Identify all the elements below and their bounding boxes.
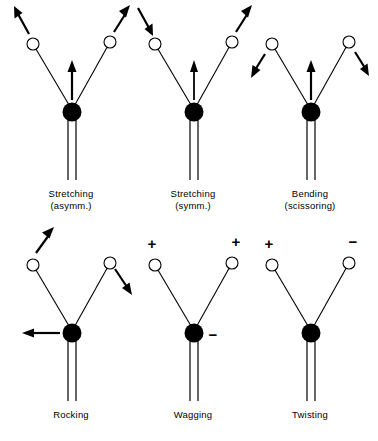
panel-stretching-asymmetric: Stretching (asymm.) [8, 0, 134, 220]
hydrogen-atom-left [149, 38, 161, 50]
panel-bending-scissoring: Bending (scissoring) [247, 0, 373, 220]
panel-twisting: + − Twisting [247, 221, 373, 441]
hydrogen-atom-right [104, 257, 116, 269]
panel-label-line2: (asymm.) [8, 200, 134, 212]
arrow-left-down-right [138, 8, 153, 36]
diagram-wagging: + + − [130, 221, 256, 406]
arrow-left-down-left [251, 54, 265, 78]
central-atom [63, 103, 82, 122]
bond-left [272, 44, 311, 110]
arrow-center-up [307, 60, 316, 100]
bond-right [311, 42, 349, 110]
bond-left [33, 44, 72, 110]
hydrogen-atom-left [266, 38, 278, 50]
hydrogen-atom-left [27, 259, 39, 271]
diagram-stretching-asymmetric [8, 0, 134, 185]
panel-label-line2: (symm.) [130, 200, 256, 212]
arrow-center-left [22, 329, 60, 338]
bond-left [272, 265, 311, 331]
bond-right [194, 42, 232, 110]
panel-wagging: + + − Wagging [130, 221, 256, 441]
diagram-stretching-symmetric [130, 0, 256, 185]
panel-label-line2: (scissoring) [247, 200, 373, 212]
hydrogen-atom-right [343, 257, 355, 269]
bond-right [194, 263, 232, 331]
sign-plus-left: + [265, 235, 274, 252]
bond-left [33, 265, 72, 331]
bond-left [155, 44, 194, 110]
hydrogen-atom-right [343, 36, 355, 48]
arrow-center-up [190, 60, 198, 100]
panel-label-line1: Rocking [8, 409, 134, 421]
diagram-bending-scissoring [247, 0, 373, 185]
central-atom [185, 324, 204, 343]
sign-minus-center: − [209, 326, 218, 343]
bond-right [72, 263, 110, 331]
panel-label-line1: Wagging [130, 409, 256, 421]
hydrogen-atom-left [27, 38, 39, 50]
central-atom [185, 103, 204, 122]
panel-label-line1: Stretching [8, 188, 134, 200]
sign-plus-left: + [148, 235, 157, 252]
panel-rocking: Rocking [8, 221, 134, 441]
sign-minus-right: − [349, 233, 358, 250]
diagram-twisting: + − [247, 221, 373, 406]
hydrogen-atom-right [226, 257, 238, 269]
panel-label-line1: Bending [247, 188, 373, 200]
bond-right [72, 42, 110, 110]
bond-left [155, 265, 194, 331]
sign-plus-right: + [232, 233, 241, 250]
arrow-left-up-left [14, 6, 29, 34]
hydrogen-atom-left [149, 259, 161, 271]
vibration-modes-figure: Stretching (asymm.) [0, 0, 378, 441]
central-atom [302, 324, 321, 343]
diagram-rocking [8, 221, 134, 406]
central-atom [302, 103, 321, 122]
arrow-right-up-right [114, 5, 130, 32]
hydrogen-atom-left [266, 259, 278, 271]
arrow-center-up [68, 60, 77, 100]
hydrogen-atom-right [226, 36, 238, 48]
central-atom [63, 324, 82, 343]
arrow-left-up-right [36, 227, 54, 253]
panel-label-line1: Twisting [247, 409, 373, 421]
bond-right [311, 263, 349, 331]
arrow-right-down-right [355, 52, 369, 76]
panel-stretching-symmetric: Stretching (symm.) [130, 0, 256, 220]
panel-label-line1: Stretching [130, 188, 256, 200]
hydrogen-atom-right [104, 36, 116, 48]
